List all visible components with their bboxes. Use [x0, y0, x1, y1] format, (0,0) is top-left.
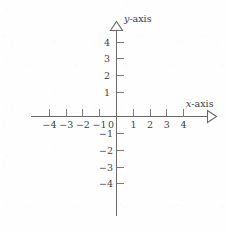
y-tick-label: −4 — [99, 178, 113, 189]
y-tick-label: −2 — [99, 145, 113, 156]
x-tick-label: 3 — [164, 119, 170, 130]
y-axis-label-suffix: -axis — [129, 13, 151, 24]
y-tick-label: −3 — [99, 162, 113, 173]
coordinate-plane-svg: −4 −3 −2 −1 0 1 2 3 4 4 3 2 1 −1 −2 −3 −… — [0, 0, 227, 232]
x-tick-label: 1 — [130, 119, 136, 130]
y-tick-label: 2 — [104, 70, 110, 81]
coordinate-plane-figure: −4 −3 −2 −1 0 1 2 3 4 4 3 2 1 −1 −2 −3 −… — [0, 0, 227, 232]
x-tick-label: −2 — [76, 119, 90, 130]
x-axis-label-suffix: -axis — [191, 98, 213, 109]
y-axis-ticks — [117, 42, 125, 184]
y-tick-label: 3 — [104, 53, 110, 64]
x-tick-label: −3 — [59, 119, 73, 130]
y-tick-label: −1 — [99, 128, 113, 139]
x-tick-label: 2 — [147, 119, 153, 130]
y-tick-label: 4 — [104, 37, 110, 48]
y-tick-label: 1 — [104, 87, 110, 98]
x-axis-tick-labels: −4 −3 −2 −1 0 1 2 3 4 — [42, 119, 186, 130]
y-axis-tick-labels: 4 3 2 1 −1 −2 −3 −4 — [99, 37, 113, 190]
arrow-right-open-icon — [208, 111, 217, 123]
x-tick-label: −4 — [42, 119, 56, 130]
x-tick-label: 4 — [180, 119, 186, 130]
y-axis-label: y-axis — [123, 13, 152, 24]
arrow-up-open-icon — [111, 22, 123, 31]
x-axis-label: x-axis — [186, 98, 214, 109]
